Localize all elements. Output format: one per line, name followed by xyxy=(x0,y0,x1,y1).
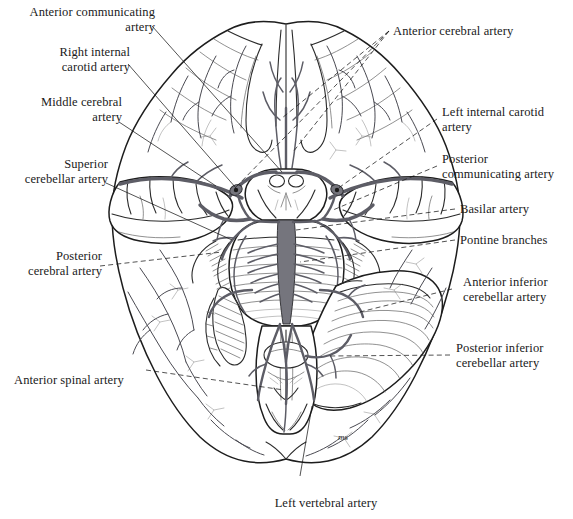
label-anterior-inferior-cerebellar-artery: Anterior inferior cerebellar artery xyxy=(463,275,573,304)
label-posterior-communicating-artery: Posterior communicating artery xyxy=(442,152,573,181)
label-left-internal-carotid-artery: Left internal carotid artery xyxy=(442,105,572,134)
label-pontine-branches: Pontine branches xyxy=(460,233,573,248)
label-left-vertebral-artery: Left vertebral artery xyxy=(246,496,406,511)
label-posterior-cerebral-artery: Posterior cerebral artery xyxy=(0,249,102,278)
label-right-internal-carotid-artery: Right internal carotid artery xyxy=(0,45,130,74)
label-anterior-communicating-artery: Anterior communicating artery xyxy=(0,5,155,34)
label-basilar-artery: Basilar artery xyxy=(460,202,570,217)
label-middle-cerebral-artery: Middle cerebral artery xyxy=(0,95,122,124)
label-anterior-cerebral-artery: Anterior cerebral artery xyxy=(393,24,568,39)
midbrain xyxy=(245,169,327,220)
label-superior-cerebellar-artery: Superior cerebellar artery xyxy=(0,157,108,186)
label-posterior-inferior-cerebellar-artery: Posterior inferior cerebellar artery xyxy=(456,341,573,370)
figure-canvas: .o{fill:none;stroke:#1d1d1d;stroke-width… xyxy=(0,0,573,519)
label-anterior-spinal-artery: Anterior spinal artery xyxy=(14,373,174,388)
artist-signature: ms xyxy=(338,432,348,442)
